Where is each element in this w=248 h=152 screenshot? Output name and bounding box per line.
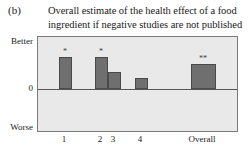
significance-marker-2: * [89,48,113,56]
chart-title: Overall estimate of the health effect of… [48,4,244,31]
bar-overall [191,64,216,89]
x-axis-label-overall: Overall [189,134,216,145]
significance-marker-1: * [53,48,77,56]
x-axis-label-1: 1 [62,134,67,145]
plot-area: **** [37,36,238,132]
x-axis-label-2: 2 [98,134,103,145]
y-axis-label-zero: 0 [29,83,34,93]
significance-marker-overall: ** [191,55,215,63]
chart-title-line-2: ingredient if negative studies are not p… [48,18,244,32]
y-axis-labels: Better 0 Worse [0,36,33,132]
bar-4 [135,78,148,89]
y-axis-label-worse: Worse [10,122,33,132]
y-axis-label-better: Better [11,36,33,46]
x-axis-label-4: 4 [138,134,143,145]
figure-panel-b: (b) Overall estimate of the health effec… [0,0,248,152]
chart-title-line-1: Overall estimate of the health effect of… [48,4,244,18]
bar-2 [95,57,108,89]
zero-baseline [38,89,237,90]
panel-label: (b) [8,4,21,17]
bar-1 [59,57,72,89]
bar-3 [108,72,121,89]
x-axis-label-3: 3 [111,134,116,145]
